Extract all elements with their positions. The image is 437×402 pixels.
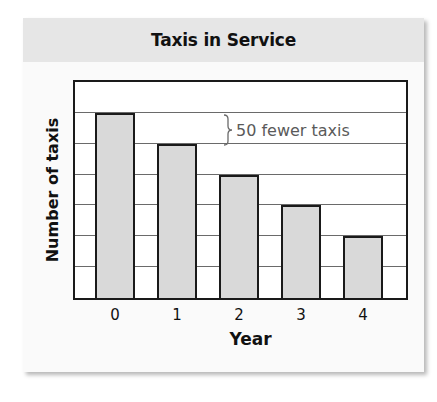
x-tick-label: 3 bbox=[286, 306, 316, 324]
bar-year-2 bbox=[219, 175, 259, 298]
plot-area: 50 fewer taxis bbox=[73, 80, 408, 300]
chart-panel: Taxis in Service Number of taxis 50 fewe… bbox=[23, 18, 424, 372]
title-band: Taxis in Service bbox=[23, 18, 424, 62]
bar-year-3 bbox=[281, 205, 321, 298]
annotation-text: 50 fewer taxis bbox=[236, 121, 350, 140]
x-axis-label: Year bbox=[23, 329, 424, 349]
x-tick-label: 1 bbox=[162, 306, 192, 324]
bar-year-4 bbox=[343, 236, 383, 298]
x-tick-label: 0 bbox=[100, 306, 130, 324]
x-tick-label: 2 bbox=[224, 306, 254, 324]
annotation: 50 fewer taxis bbox=[223, 114, 350, 146]
x-tick-label: 4 bbox=[348, 306, 378, 324]
brace-icon bbox=[223, 114, 233, 146]
chart-title: Taxis in Service bbox=[151, 30, 296, 50]
bar-year-1 bbox=[157, 144, 197, 298]
y-axis-label: Number of taxis bbox=[43, 115, 62, 265]
bar-year-0 bbox=[95, 113, 135, 298]
